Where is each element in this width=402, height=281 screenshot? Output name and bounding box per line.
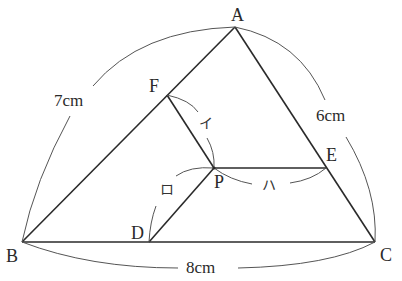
segment-PF xyxy=(167,95,214,168)
point-P-dot xyxy=(212,166,215,169)
arc-AB-upper xyxy=(93,27,235,86)
arc-AB-lower xyxy=(22,116,70,242)
label-mark-PE: ハ xyxy=(262,178,276,192)
geometry-diagram: A B C D E F P 7cm 6cm 8cm イ ロ ハ xyxy=(0,0,402,281)
label-length-AC: 6cm xyxy=(316,107,345,124)
label-length-BC: 8cm xyxy=(186,259,215,276)
arc-PD-lower xyxy=(149,206,156,242)
arc-AC-upper xyxy=(235,27,325,100)
arc-AC-lower xyxy=(346,137,375,242)
label-length-AB: 7cm xyxy=(54,92,83,109)
label-point-A: A xyxy=(231,6,244,24)
arc-PE-right xyxy=(290,168,326,183)
label-mark-PF: イ xyxy=(199,116,213,130)
segment-PD xyxy=(149,168,214,242)
label-point-P: P xyxy=(214,173,224,191)
side-AC xyxy=(235,27,375,242)
label-mark-PD: ロ xyxy=(160,182,174,196)
arc-BC-left xyxy=(22,242,178,268)
label-point-D: D xyxy=(131,224,144,242)
label-point-C: C xyxy=(380,246,392,264)
arc-BC-right xyxy=(238,242,375,268)
label-point-F: F xyxy=(149,77,159,95)
diagram-svg xyxy=(0,0,402,281)
side-AB xyxy=(22,27,235,242)
label-point-B: B xyxy=(6,247,18,265)
label-point-E: E xyxy=(326,146,337,164)
